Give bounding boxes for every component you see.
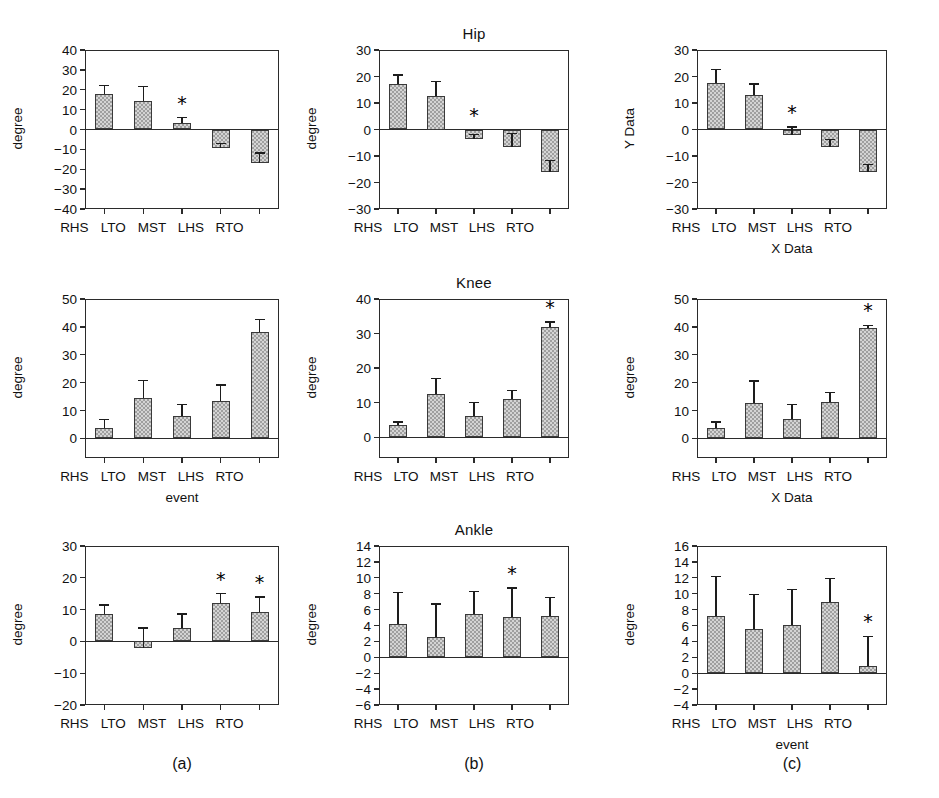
error-bar-cap [825,578,835,579]
y-tick-label: 8 [637,602,689,617]
y-tick-mark [692,609,697,610]
chart-panel-ankle-c: −4−20246810121416degreeRHSLTOMSTLHSRTO*e… [0,0,939,798]
x-tick-mark [791,705,792,710]
error-bar-stem [791,590,792,625]
error-bar-cap [787,589,797,590]
y-tick-mark [692,657,697,658]
error-bar-cap [749,594,759,595]
y-tick-mark [692,561,697,562]
y-tick-label: 12 [637,570,689,585]
x-tick-mark [829,705,830,710]
y-tick-mark [692,704,697,705]
y-tick-label: 10 [637,586,689,601]
bar-ankle-c-LTO [745,629,762,674]
y-tick-label: 14 [637,554,689,569]
y-tick-mark [692,625,697,626]
error-bar-stem [867,636,868,666]
x-tick-mark [867,705,868,710]
panel-letter-2: (c) [783,755,802,773]
error-bar-stem [715,576,716,616]
y-tick-label: 0 [637,666,689,681]
bar-ankle-c-LHS [821,602,838,673]
x-tick-mark [753,705,754,710]
error-bar-cap [711,576,721,577]
figure-panel-grid: −40−30−20−10010203040degreeRHSLTOMST*LHS… [0,0,939,798]
y-tick-label: 4 [637,634,689,649]
x-tick-mark [715,705,716,710]
x-axis-label-ankle-c: event [697,737,887,752]
bar-ankle-c-RHS [707,616,724,673]
x-tick-label: RTO [808,716,868,731]
y-tick-mark [692,641,697,642]
significance-star: * [863,612,873,631]
y-axis-label-ankle-c: degree [622,574,637,674]
error-bar-stem [829,579,830,603]
error-bar-cap [863,636,873,637]
y-tick-label: 2 [637,650,689,665]
y-tick-label: 6 [637,618,689,633]
bar-ankle-c-MST [783,625,800,673]
y-tick-mark [692,545,697,546]
error-bar-stem [753,594,754,628]
y-tick-mark [692,593,697,594]
panel-letter-0: (a) [172,755,192,773]
y-tick-label: −2 [637,682,689,697]
y-tick-mark [692,577,697,578]
y-tick-mark [692,688,697,689]
bar-ankle-c-RTO [859,666,876,673]
panel-letter-1: (b) [464,755,484,773]
y-tick-label: −4 [637,698,689,713]
y-tick-label: 16 [637,539,689,554]
